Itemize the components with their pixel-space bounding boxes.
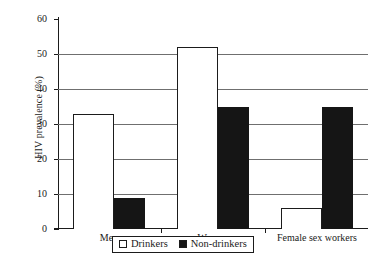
y-tick-0: 0 [54,229,58,230]
y-tick-40: 40 [54,89,58,90]
y-ticklabel-40: 40 [37,84,47,94]
y-ticklabel-0: 0 [42,224,47,234]
hiv-prevalence-bar-chart: HIV prevalence (%) 0 10 20 30 40 50 [0,0,386,261]
bar-women-non-drinkers [218,107,249,230]
legend-swatch-non-drinkers-icon [179,240,187,248]
x-tick-separator-2 [265,229,266,233]
y-tick-50: 50 [54,54,58,55]
legend-entry-non-drinkers: Non-drinkers [179,239,247,250]
y-ticklabel-50: 50 [37,49,47,59]
x-tick-separator-1 [161,229,162,233]
legend-swatch-drinkers-icon [119,240,127,248]
y-tick-60: 60 [54,19,58,20]
gridline-0 [58,229,368,230]
y-ticklabel-20: 20 [37,154,47,164]
bar-men-drinkers [73,114,114,230]
y-ticklabel-30: 30 [37,119,47,129]
y-tick-10: 10 [54,194,58,195]
plot-area: 0 10 20 30 40 50 60 [58,19,368,229]
x-ticklabel-female-sex-workers: Female sex workers [277,233,357,243]
legend-label-non-drinkers: Non-drinkers [191,239,247,250]
bar-men-non-drinkers [114,198,145,230]
y-tick-20: 20 [54,159,58,160]
bar-female-sex-workers-drinkers [281,208,322,229]
legend-entry-drinkers: Drinkers [119,239,168,250]
legend: Drinkers Non-drinkers [112,236,254,253]
y-ticklabel-60: 60 [37,14,47,24]
bar-women-drinkers [177,47,218,229]
y-ticklabel-10: 10 [37,189,47,199]
bar-female-sex-workers-non-drinkers [322,107,353,230]
y-tick-30: 30 [54,124,58,125]
legend-label-drinkers: Drinkers [131,239,168,250]
